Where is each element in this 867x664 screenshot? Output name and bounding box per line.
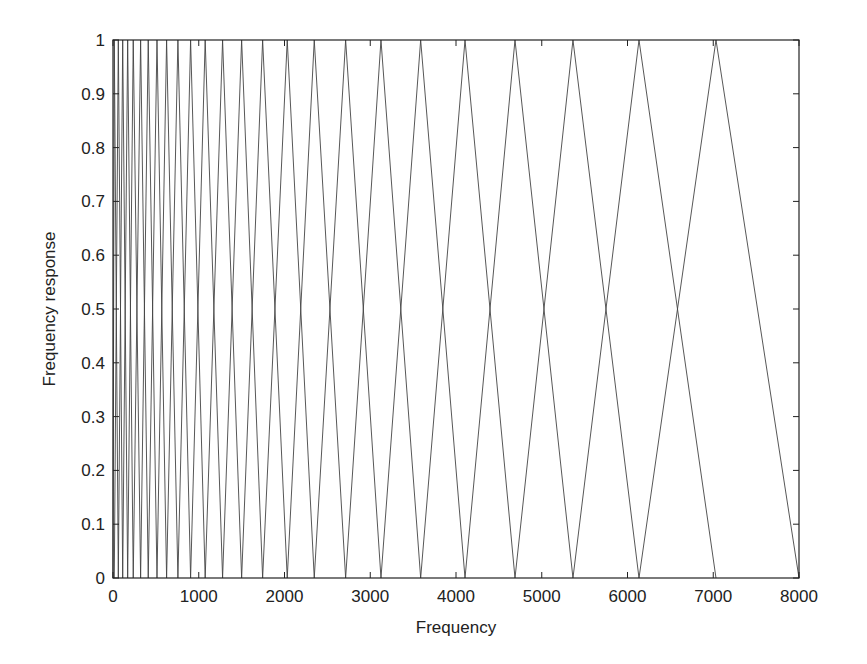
x-tick-label: 7000 [694, 587, 732, 606]
filter-triangle [141, 40, 157, 578]
filter-triangle [639, 40, 799, 578]
y-tick-label: 0.5 [81, 300, 105, 319]
y-tick-label: 0.7 [81, 192, 105, 211]
y-tick-label: 1 [96, 31, 105, 50]
x-tick-label: 5000 [523, 587, 561, 606]
x-tick-label: 3000 [351, 587, 389, 606]
filter-triangle [167, 40, 191, 578]
filter-triangle [287, 40, 345, 578]
filter-triangle [421, 40, 515, 578]
x-tick-label: 1000 [180, 587, 218, 606]
filter-triangle [133, 40, 148, 578]
y-axis-title: Frequency response [40, 232, 59, 387]
filter-triangle [178, 40, 205, 578]
y-tick-label: 0.4 [81, 354, 105, 373]
filter-triangle [191, 40, 223, 578]
y-tick-label: 0.9 [81, 85, 105, 104]
y-tick-label: 0.1 [81, 515, 105, 534]
filter-triangle [515, 40, 639, 578]
x-tick-label: 8000 [780, 587, 818, 606]
filter-triangle [314, 40, 381, 578]
y-tick-label: 0.8 [81, 139, 105, 158]
y-tick-label: 0 [96, 569, 105, 588]
filter-triangle [123, 40, 134, 578]
plot-frame [113, 40, 799, 578]
filter-triangle [223, 40, 263, 578]
x-axis-title: Frequency [416, 618, 497, 637]
filter-triangle [242, 40, 288, 578]
filter-triangle [148, 40, 166, 578]
x-tick-label: 4000 [437, 587, 475, 606]
filterbank-chart: 00.10.20.30.40.50.60.70.80.91 0100020003… [0, 0, 867, 664]
filter-triangle [205, 40, 241, 578]
filter-triangle [573, 40, 716, 578]
x-tick-label: 2000 [266, 587, 304, 606]
filter-triangle [263, 40, 315, 578]
y-tick-label: 0.2 [81, 461, 105, 480]
filter-triangles [113, 40, 799, 578]
filter-triangle [346, 40, 421, 578]
x-tick-label: 0 [108, 587, 117, 606]
y-tick-label: 0.6 [81, 246, 105, 265]
filter-triangle [381, 40, 465, 578]
filter-triangle [465, 40, 573, 578]
y-tick-label: 0.3 [81, 408, 105, 427]
x-tick-label: 6000 [609, 587, 647, 606]
filter-triangle [157, 40, 178, 578]
